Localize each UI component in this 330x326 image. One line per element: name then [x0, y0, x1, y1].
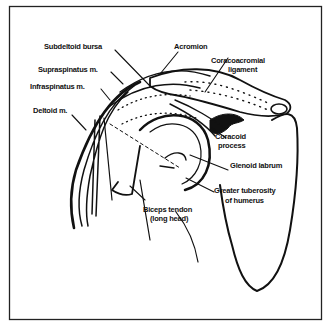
shoulder-anatomy-diagram: Subdeltoid bursa Acromion Supraspinatus …	[0, 0, 330, 326]
label-coracoid-line1: Coracoid	[215, 132, 247, 141]
label-infraspinatus: Infraspinatus m.	[30, 82, 85, 91]
label-supraspinatus: Supraspinatus m.	[38, 65, 98, 74]
label-acromion: Acromion	[174, 42, 208, 51]
label-subdeltoid-bursa: Subdeltoid bursa	[44, 42, 103, 51]
label-greater-tuberosity-line2: of humerus	[225, 196, 264, 205]
label-greater-tuberosity-line1: Greater tuberosity	[214, 186, 276, 195]
label-biceps-tendon-line1: Biceps tendon	[143, 205, 193, 214]
label-deltoid: Deltoid m.	[33, 106, 67, 115]
label-coracoacromial-line1: Coracoacromial	[211, 56, 265, 65]
label-biceps-tendon-line2: (long head)	[150, 214, 189, 223]
label-glenoid-labrum: Glenoid labrum	[230, 161, 283, 170]
label-coracoid-line2: process	[218, 141, 245, 150]
label-coracoacromial-line2: ligament	[228, 65, 258, 74]
